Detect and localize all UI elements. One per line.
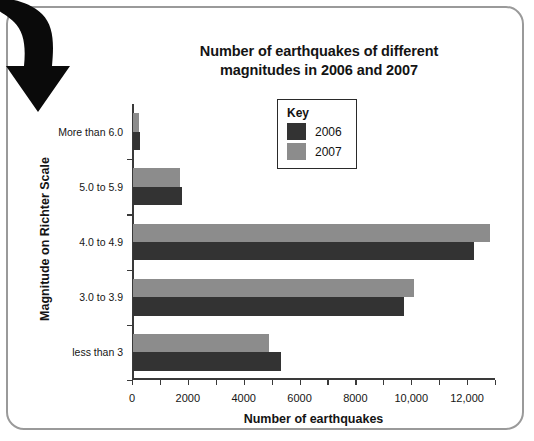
x-axis-tick [439,380,440,385]
y-axis-category-label: less than 3 [72,346,123,358]
y-axis-category-label: 5.0 to 5.9 [79,181,123,193]
legend-label-2007: 2007 [315,145,342,159]
bar-2006-more-than-6-0 [133,132,140,150]
x-axis-tick [216,380,217,385]
x-axis-title: Number of earthquakes [132,412,495,426]
legend-swatch-2007 [287,143,306,160]
y-axis-tick [127,159,132,160]
x-axis-tick [244,380,245,385]
legend-title: Key [287,106,342,120]
y-axis-tick [127,214,132,215]
x-axis-tick [132,380,133,385]
legend-item-2007: 2007 [287,143,342,160]
bar-2007-less-than-3 [133,334,269,352]
bar-2006-3-0-to-3-9 [133,297,404,315]
x-axis-tick [160,380,161,385]
bar-2007-3-0-to-3-9 [133,279,414,297]
x-axis-tick [467,380,468,385]
legend-item-2006: 2006 [287,123,342,140]
x-axis-tick-label: 4000 [231,392,255,404]
x-axis-tick-label: 0 [129,392,135,404]
x-axis-tick [188,380,189,385]
x-axis-tick [383,380,384,385]
y-axis-tick [127,380,132,381]
bar-2007-more-than-6-0 [133,113,139,131]
y-axis-category-label: 4.0 to 4.9 [79,236,123,248]
x-axis-tick-label: 10,000 [394,392,428,404]
x-axis-tick [272,380,273,385]
chart-legend: Key 2006 2007 [277,99,357,169]
y-axis-title: Magnitude on Richter Scale [38,124,52,354]
y-axis-category-label: More than 6.0 [58,126,123,138]
x-axis-line [132,378,495,380]
x-axis-tick-label: 12,000 [450,392,484,404]
chart-title-line1: Number of earthquakes of different [200,43,438,59]
x-axis-tick [495,380,496,385]
bar-2006-5-0-to-5-9 [133,187,182,205]
x-axis-tick-label: 8000 [343,392,367,404]
earthquake-bar-chart: Number of earthquakes of different magni… [0,0,534,441]
x-axis-tick [411,380,412,385]
bar-2007-5-0-to-5-9 [133,168,180,186]
bar-2006-less-than-3 [133,352,281,370]
bar-2007-4-0-to-4-9 [133,224,490,242]
x-axis-tick-label: 6000 [287,392,311,404]
legend-swatch-2006 [287,123,306,140]
chart-title-line2: magnitudes in 2006 and 2007 [220,62,418,78]
x-axis-tick [327,380,328,385]
x-axis-tick [355,380,356,385]
chart-title: Number of earthquakes of different magni… [124,42,514,80]
x-axis-tick-label: 2000 [176,392,200,404]
legend-label-2006: 2006 [315,125,342,139]
x-axis-tick [300,380,301,385]
y-axis-tick [127,325,132,326]
bar-2006-4-0-to-4-9 [133,242,474,260]
y-axis-tick [127,270,132,271]
y-axis-category-label: 3.0 to 3.9 [79,291,123,303]
